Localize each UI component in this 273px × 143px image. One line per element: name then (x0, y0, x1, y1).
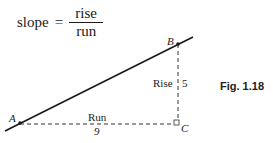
run-label: Run (88, 111, 106, 123)
rise-label: Rise (153, 77, 173, 89)
point-b-label: B (167, 35, 174, 47)
run-value: 9 (94, 125, 100, 137)
point-c-label: C (181, 122, 188, 134)
triangle-diagram (0, 0, 273, 143)
rise-value: 5 (182, 77, 188, 89)
point-a-dot (18, 121, 22, 125)
figure-label: Fig. 1.18 (220, 80, 264, 92)
right-angle-marker (174, 120, 179, 125)
point-b-dot (176, 42, 180, 46)
point-a-label: A (9, 112, 16, 124)
